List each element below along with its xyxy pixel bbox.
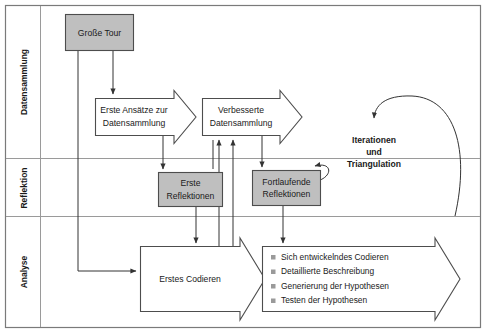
fortlaufende-reflektionen-label-line2: Reflektionen <box>263 189 311 199</box>
analyse-liste-arrow-shape[interactable] <box>263 238 461 320</box>
erste-ansaetze-arrow-shape[interactable] <box>96 91 197 144</box>
bullet-marker-icon <box>271 284 276 289</box>
bullet-marker-icon <box>271 299 276 304</box>
node-erste-ansaetze[interactable]: Erste Ansätze zur Datensammlung <box>96 91 197 144</box>
erste-ansaetze-label-line1: Erste Ansätze zur <box>100 105 167 115</box>
verbesserte-label-line2: Datensammlung <box>210 118 273 128</box>
iterationen-line1: Iterationen <box>352 135 396 145</box>
iterationen-line3: Triangulation <box>347 159 401 169</box>
erstes-codieren-label: Erstes Codieren <box>159 274 221 284</box>
erste-reflektionen-label-line2: Reflektionen <box>167 191 215 201</box>
iterationen-line2: und <box>366 147 382 157</box>
diagram-canvas: Datensammlung Reflektion Analyse Gr <box>0 0 486 333</box>
lane-label-analyse: Analyse <box>19 255 29 288</box>
process-diagram: Datensammlung Reflektion Analyse Gr <box>0 0 486 333</box>
analyse-liste-item-4: Testen der Hypothesen <box>281 295 367 305</box>
verbesserte-label-line1: Verbesserte <box>218 105 264 115</box>
node-fortlaufende-reflektionen[interactable]: Fortlaufende Reflektionen <box>253 171 321 206</box>
lane-label-datensammlung: Datensammlung <box>19 49 29 115</box>
grosse-tour-label: Große Tour <box>78 28 121 38</box>
analyse-liste-item-3: Generierung der Hypothesen <box>281 281 389 291</box>
lane-label-reflektion: Reflektion <box>19 167 29 208</box>
analyse-liste-item-2: Detaillierte Beschreibung <box>281 266 374 276</box>
erste-ansaetze-label-line2: Datensammlung <box>103 118 166 128</box>
analyse-liste-item-1: Sich entwickelndes Codieren <box>281 252 389 262</box>
node-erste-reflektionen[interactable]: Erste Reflektionen <box>159 173 223 207</box>
node-analyse-liste[interactable]: Sich entwickelndes Codieren Detaillierte… <box>263 238 461 320</box>
fortlaufende-reflektionen-label-line1: Fortlaufende <box>262 177 310 187</box>
erste-reflektionen-label-line1: Erste <box>180 178 200 188</box>
bullet-marker-icon <box>271 270 276 275</box>
bullet-marker-icon <box>271 255 276 260</box>
node-verbesserte-datensammlung[interactable]: Verbesserte Datensammlung <box>203 91 303 144</box>
node-grosse-tour[interactable]: Große Tour <box>66 15 134 51</box>
verbesserte-arrow-shape[interactable] <box>203 91 303 144</box>
node-erstes-codieren[interactable]: Erstes Codieren <box>141 238 266 320</box>
